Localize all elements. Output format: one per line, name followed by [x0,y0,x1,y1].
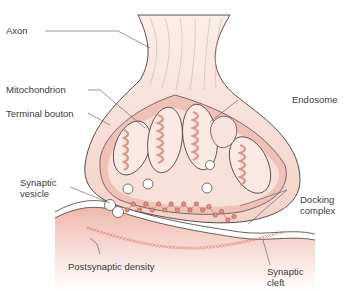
label-synaptic-vesicle-1: Synaptic [20,177,57,188]
docking-protein [156,202,160,206]
docking-protein [125,208,129,212]
docking-protein [219,209,223,213]
docking-protein [194,202,198,206]
docking-protein [150,208,154,212]
docking-protein [175,208,179,212]
docking-protein [144,202,148,206]
docking-protein [163,208,167,212]
synaptic-vesicle [143,179,153,189]
docking-protein [131,202,135,206]
label-axon: Axon [6,25,28,36]
synapse-diagram: Axon Mitochondrion Terminal bouton Endos… [0,0,353,291]
docking-protein [182,202,186,206]
label-docking-complex-1: Docking [300,194,334,205]
docking-protein [232,214,236,218]
docking-protein [137,208,141,212]
synaptic-vesicle [113,207,124,218]
label-mitochondrion: Mitochondrion [6,84,66,95]
synaptic-vesicle [123,184,133,194]
synaptic-vesicle [202,183,212,193]
docking-protein [207,204,211,208]
label-synaptic-vesicle-2: vesicle [20,188,49,199]
label-synaptic-cleft-2: cleft [267,277,285,288]
label-postsynaptic-density: Postsynaptic density [68,261,155,272]
label-terminal-bouton: Terminal bouton [6,108,74,119]
density-mark [268,234,271,237]
label-endosome: Endosome [292,94,337,105]
docking-protein [169,202,173,206]
docking-protein [213,213,217,217]
density-mark [262,236,265,239]
label-docking-complex-2: complex [300,205,336,216]
density-mark [265,235,268,238]
docking-protein [200,208,204,212]
density-mark [272,233,275,236]
docking-protein [226,218,230,222]
synaptic-vesicle [206,161,215,170]
docking-protein [188,208,192,212]
label-synaptic-cleft-1: Synaptic [267,266,304,277]
